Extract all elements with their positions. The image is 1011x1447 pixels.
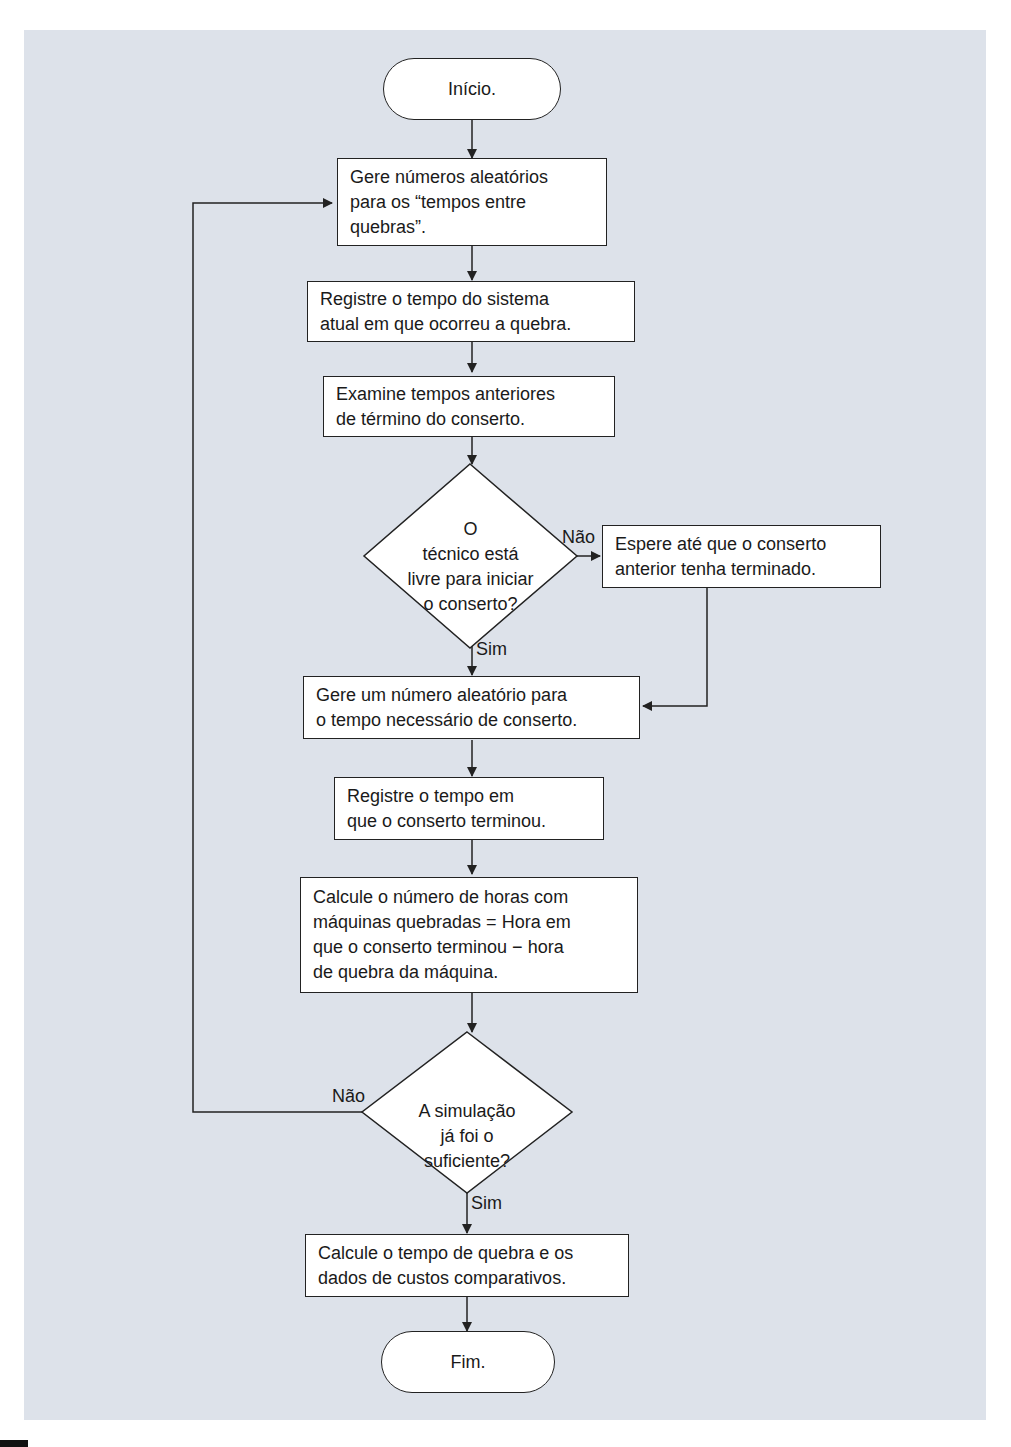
step-record-breakdown-time: Registre o tempo do sistema atual em que… [307, 281, 635, 342]
edge-label-no-2: Não [332, 1086, 365, 1107]
step-generate-interarrival: Gere números aleatórios para os “tempos … [337, 158, 607, 246]
step-record-repair-end: Registre o tempo em que o conserto termi… [334, 777, 604, 840]
edge-label-yes-2: Sim [471, 1193, 502, 1214]
start-terminal: Início. [383, 58, 561, 120]
edge-label-no-1: Não [562, 527, 595, 548]
step-generate-repair-time: Gere um número aleatório para o tempo ne… [303, 676, 640, 739]
decision-simulation-enough-label: A simulação já foi o suficiente? [362, 1074, 572, 1174]
decision-technician-free-label: O técnico está livre para iniciar o cons… [364, 492, 577, 617]
start-label: Início. [448, 77, 496, 102]
step-calc-costs: Calcule o tempo de quebra e os dados de … [305, 1234, 629, 1297]
edge-label-yes-1: Sim [476, 639, 507, 660]
end-label: Fim. [451, 1350, 486, 1375]
step-calc-downtime-hours: Calcule o número de horas com máquinas q… [300, 877, 638, 993]
end-terminal: Fim. [381, 1331, 555, 1393]
step-wait-previous-repair: Espere até que o conserto anterior tenha… [602, 525, 881, 588]
step-examine-repair-times: Examine tempos anteriores de término do … [323, 376, 615, 437]
page-corner-mark [0, 1440, 28, 1447]
